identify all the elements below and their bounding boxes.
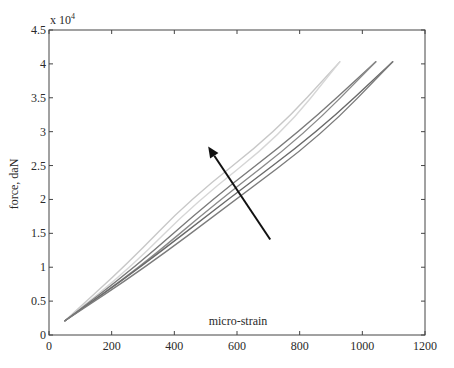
y-tick-label: 2.5 [31, 159, 46, 173]
y-tick-label: 0.5 [31, 294, 46, 308]
y-tick-label: 0 [40, 328, 46, 342]
y-tick-labels: 00.511.522.533.544.5 [31, 23, 46, 342]
x-tick-labels: 020040060080010001200 [46, 339, 437, 353]
y-tick-label: 1.5 [31, 226, 46, 240]
x-tick-label: 800 [291, 339, 309, 353]
x-tick-label: 400 [165, 339, 183, 353]
y-axis-label: force, daN [7, 158, 21, 209]
y-tick-label: 4 [40, 57, 46, 71]
x-tick-label: 600 [228, 339, 246, 353]
x-tick-label: 0 [46, 339, 52, 353]
y-multiplier-label: x 104 [50, 12, 75, 27]
y-tick-label: 2 [40, 192, 46, 206]
x-axis-label: micro-strain [209, 314, 268, 328]
y-tick-label: 4.5 [31, 23, 46, 37]
x-tick-label: 1000 [350, 339, 374, 353]
y-tick-label: 3 [40, 125, 46, 139]
x-tick-label: 200 [103, 339, 121, 353]
x-tick-label: 1200 [413, 339, 437, 353]
y-tick-label: 1 [40, 260, 46, 274]
y-tick-label: 3.5 [31, 91, 46, 105]
chart: 020040060080010001200 00.511.522.533.544… [0, 0, 454, 368]
